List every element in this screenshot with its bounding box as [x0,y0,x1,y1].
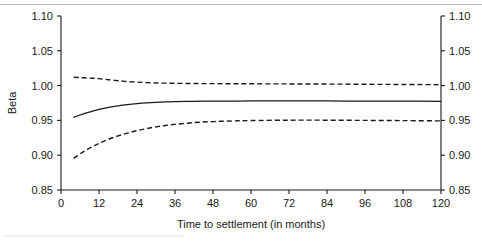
y-axis-left-tick-labels: 0.850.900.951.001.051.10 [32,10,53,196]
y-tick-label-right: 1.10 [449,10,470,22]
y-axis-right-tick-labels: 0.850.900.951.001.051.10 [449,10,470,196]
y-tick-label-right: 0.95 [449,114,470,126]
y-tick-label-left: 0.90 [32,149,53,161]
series-line-solid [74,101,441,117]
x-tick-label: 0 [58,197,64,209]
x-axis-ticks [61,190,441,194]
y-tick-label-left: 0.85 [32,184,53,196]
x-axis-title: Time to settlement (in months) [177,218,325,230]
y-tick-label-left: 0.95 [32,114,53,126]
x-axis: 01224364860728496108120 [58,190,450,209]
y-axis-right: 0.850.900.951.001.051.10 [441,10,470,196]
x-tick-label: 72 [283,197,295,209]
x-tick-label: 96 [359,197,371,209]
x-tick-label: 60 [245,197,257,209]
y-tick-label-left: 1.05 [32,45,53,57]
y-tick-label-right: 0.90 [449,149,470,161]
y-tick-label-right: 1.00 [449,80,470,92]
x-tick-label: 48 [207,197,219,209]
series-line-dashed [74,77,441,84]
beta-vs-settlement-time-plot: 0.850.900.951.001.051.10 0.850.900.951.0… [0,0,482,242]
x-tick-label: 84 [321,197,333,209]
x-tick-label: 36 [169,197,181,209]
x-tick-label: 120 [432,197,450,209]
y-tick-label-right: 0.85 [449,184,470,196]
y-axis-left-ticks [57,16,61,190]
y-tick-label-right: 1.05 [449,45,470,57]
x-tick-label: 12 [93,197,105,209]
x-tick-label: 24 [131,197,143,209]
chart-figure: 0.850.900.951.001.051.10 0.850.900.951.0… [0,0,482,242]
data-series-group [74,77,441,158]
x-tick-label: 108 [394,197,412,209]
series-line-dashed [74,120,441,158]
y-axis-title: Beta [6,91,18,115]
y-axis-right-ticks [441,16,445,190]
y-axis-left: 0.850.900.951.001.051.10 [32,10,61,196]
x-axis-tick-labels: 01224364860728496108120 [58,197,450,209]
y-tick-label-left: 1.00 [32,80,53,92]
y-tick-label-left: 1.10 [32,10,53,22]
